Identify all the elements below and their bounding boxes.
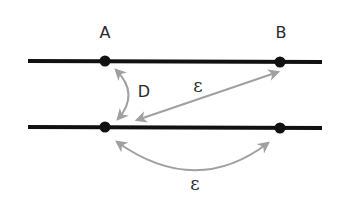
label-D: D — [138, 82, 150, 101]
label-B: B — [276, 23, 287, 42]
point-bottom-right — [275, 123, 286, 134]
label-A: A — [100, 23, 111, 42]
point-A — [100, 56, 111, 67]
arrow-epsilon-diagonal — [137, 72, 278, 120]
arrow-epsilon-bottom — [117, 142, 268, 170]
point-B — [275, 57, 286, 68]
diagram-canvas: A B D ε ε — [0, 0, 347, 203]
label-epsilon-diagonal: ε — [193, 75, 202, 96]
point-bottom-left — [100, 122, 111, 133]
arrow-D — [116, 70, 129, 119]
label-epsilon-bottom: ε — [190, 173, 199, 194]
